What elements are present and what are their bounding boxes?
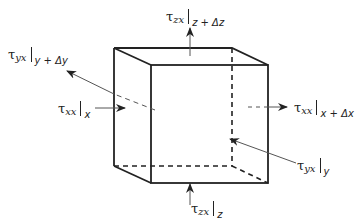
label-tau-yx-left-upper: τyxy + Δy bbox=[8, 47, 68, 62]
arrow-right-lower bbox=[230, 139, 296, 163]
label-tau-zx-bottom: τzxz bbox=[191, 201, 222, 216]
stress-arrows bbox=[67, 28, 296, 205]
cube-edges bbox=[114, 48, 268, 183]
label-tau-zx-top: τzxz + Δz bbox=[166, 9, 224, 24]
label-tau-xx-right: τxxx + Δx bbox=[294, 100, 354, 115]
hidden-edges bbox=[114, 48, 268, 183]
label-tau-xx-left-lower: τxxx bbox=[58, 101, 90, 116]
label-tau-yx-right-lower: τyxy bbox=[297, 158, 329, 173]
arrow-left-upper bbox=[67, 71, 114, 94]
